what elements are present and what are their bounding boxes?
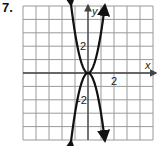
parabola-chart: xy22-2: [0, 0, 161, 146]
y-tick-label: 2: [80, 40, 86, 52]
x-tick-label: 2: [111, 75, 117, 87]
y-axis-label: y: [91, 5, 99, 17]
x-axis-label: x: [144, 59, 151, 71]
